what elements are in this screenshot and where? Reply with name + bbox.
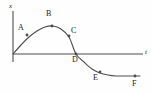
graph-canvas bbox=[0, 0, 152, 94]
point-label-c: C bbox=[71, 27, 76, 35]
data-point-e bbox=[99, 71, 102, 74]
point-label-b: B bbox=[46, 10, 51, 18]
data-point-markers bbox=[26, 25, 137, 78]
point-label-d: D bbox=[72, 56, 78, 64]
x-axis-label: t bbox=[145, 49, 147, 56]
data-point-f bbox=[134, 75, 137, 78]
point-label-e: E bbox=[93, 74, 98, 82]
data-point-a bbox=[26, 34, 29, 37]
y-axis-label: x bbox=[9, 3, 12, 10]
curve-path bbox=[13, 26, 140, 76]
point-label-a: A bbox=[18, 24, 24, 32]
data-point-c bbox=[68, 35, 71, 38]
graph-figure: x t ABCDEF bbox=[0, 0, 152, 94]
data-point-b bbox=[51, 25, 54, 28]
point-label-f: F bbox=[132, 80, 136, 88]
